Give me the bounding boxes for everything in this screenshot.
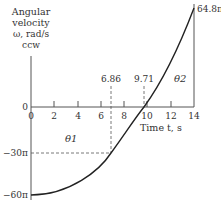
theta2-label: θ2 xyxy=(174,73,186,84)
y-tick-minus30pi: −30π xyxy=(3,148,28,158)
svg-text:4: 4 xyxy=(75,111,81,121)
annotation-6.86: 6.86 xyxy=(101,74,121,84)
svg-text:2: 2 xyxy=(51,111,57,121)
angular-velocity-chart: Angular velocity ω, rad/s ccw 64.8π 6.86… xyxy=(0,0,221,210)
ylabel-line4: ccw xyxy=(22,40,40,50)
ylabel-line3: ω, rad/s xyxy=(13,29,50,39)
svg-text:0: 0 xyxy=(28,111,34,121)
ylabel-line2: velocity xyxy=(11,17,50,28)
ylabel-line1: Angular xyxy=(11,6,51,17)
y-top-label: 64.8π xyxy=(197,4,221,14)
theta1-label: θ1 xyxy=(65,133,77,144)
svg-text:10: 10 xyxy=(141,111,153,121)
x-ticks xyxy=(54,101,171,107)
svg-text:14: 14 xyxy=(188,111,200,121)
x-tick-labels: 0 2 4 6 8 10 12 14 xyxy=(28,111,200,121)
svg-text:8: 8 xyxy=(121,111,127,121)
annotation-9.71: 9.71 xyxy=(134,74,154,84)
omega-curve xyxy=(31,8,194,195)
y-tick-minus60pi: −60π xyxy=(3,190,28,200)
svg-text:12: 12 xyxy=(165,111,176,121)
x-axis-label: Time t, s xyxy=(140,122,182,133)
svg-text:6: 6 xyxy=(98,111,104,121)
